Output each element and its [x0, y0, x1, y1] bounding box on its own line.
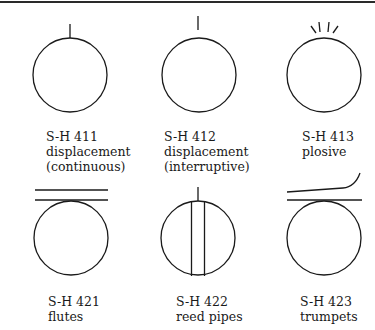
item-code: S-H 421	[48, 294, 100, 309]
item-code: S-H 413	[302, 129, 354, 144]
item-description: displacement	[164, 144, 250, 159]
item-description: trumpets	[300, 309, 358, 324]
item-description: plosive	[302, 144, 354, 159]
item-label-422: S-H 422 reed pipes	[176, 294, 243, 324]
item-label-412: S-H 412 displacement (interruptive)	[164, 129, 250, 174]
item-label-411: S-H 411 displacement (continuous)	[46, 129, 131, 174]
item-description: reed pipes	[176, 309, 243, 324]
item-description: flutes	[48, 309, 100, 324]
item-description: (continuous)	[46, 159, 131, 174]
symbol-displacement-continuous-icon	[33, 24, 107, 112]
item-description: (interruptive)	[164, 159, 250, 174]
item-code: S-H 411	[46, 129, 131, 144]
item-description: displacement	[46, 144, 131, 159]
symbol-displacement-interruptive-icon	[162, 16, 236, 112]
symbol-flutes-icon	[34, 190, 108, 275]
symbol-trumpets-icon	[287, 173, 362, 275]
item-code: S-H 412	[164, 129, 250, 144]
item-label-421: S-H 421 flutes	[48, 294, 100, 324]
item-label-413: S-H 413 plosive	[302, 129, 354, 159]
item-code: S-H 423	[300, 294, 358, 309]
symbol-plosive-icon	[287, 22, 361, 112]
symbol-reed-pipes-icon	[161, 187, 235, 276]
item-code: S-H 422	[176, 294, 243, 309]
item-label-423: S-H 423 trumpets	[300, 294, 358, 324]
